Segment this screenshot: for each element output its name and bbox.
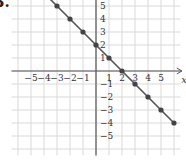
x-tick-label: −4 [37, 73, 51, 83]
data-point [132, 81, 137, 86]
data-point [145, 94, 150, 99]
y-tick-label: −1 [100, 79, 113, 89]
data-point [54, 3, 59, 8]
x-tick-label: −1 [76, 73, 89, 83]
data-point [80, 29, 85, 34]
data-point [67, 16, 72, 21]
data-point [106, 55, 111, 60]
line-chart: x−5−4−3−2−11234554321−1−2−3−4−5 [0, 0, 186, 166]
y-tick-label: −2 [100, 92, 113, 102]
x-tick-label: −2 [63, 73, 76, 83]
x-tick-label: −3 [50, 73, 64, 83]
x-tick-label: 4 [145, 73, 151, 83]
data-point [119, 68, 124, 73]
data-point [171, 120, 176, 125]
y-tick-label: 5 [100, 1, 106, 11]
y-tick-label: 3 [100, 27, 106, 37]
x-axis-label: x [181, 74, 186, 85]
x-tick-label: 2 [119, 73, 125, 83]
y-tick-label: 2 [100, 40, 106, 50]
y-tick-label: −3 [100, 105, 114, 115]
data-point [93, 42, 98, 47]
y-tick-label: −4 [100, 118, 114, 128]
x-tick-label: −5 [24, 73, 38, 83]
x-tick-label: 5 [158, 73, 164, 83]
y-tick-label: 4 [100, 14, 106, 24]
data-point [158, 107, 163, 112]
y-tick-label: −5 [100, 131, 114, 141]
